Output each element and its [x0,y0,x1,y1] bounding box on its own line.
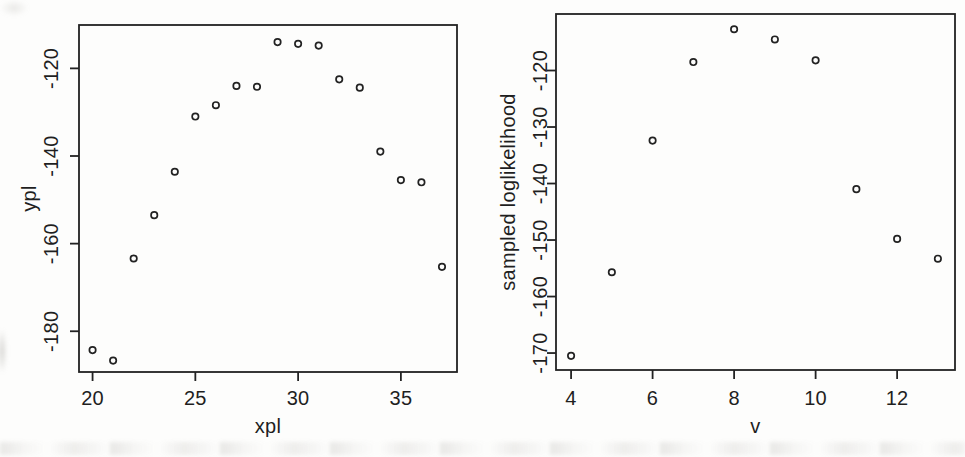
data-point [192,113,198,119]
data-point [151,212,157,218]
data-point [130,255,136,261]
data-point [377,148,383,154]
x-tick-label: 8 [728,387,739,409]
data-point [213,102,219,108]
x-tick-label: 30 [287,387,310,409]
data-point [812,57,818,63]
scanned-page: 20253035-180-160-140-120xplypl 4681012-1… [0,0,965,457]
data-point [274,39,280,45]
data-point [649,137,655,143]
data-point [110,357,116,363]
y-tick-label: -120 [40,48,62,89]
data-point [295,41,301,47]
data-point [254,84,260,90]
y-tick-label: -160 [40,223,62,264]
scan-artifact-blob [0,0,28,16]
y-tick-label: -170 [529,332,551,373]
data-point [398,177,404,183]
data-point [357,84,363,90]
chart-v-loglikelihood: 4681012-170-160-150-140-130-120vsampled … [497,14,955,437]
x-axis-title: v [750,415,760,437]
scan-artifact-blob [0,328,7,374]
data-point [439,264,445,270]
data-point [935,255,941,261]
plots-figure: 20253035-180-160-140-120xplypl 4681012-1… [0,0,965,457]
data-point [853,186,859,192]
x-tick-label: 6 [647,387,658,409]
x-tick-label: 20 [81,387,104,409]
data-point [172,169,178,175]
data-point [568,353,574,359]
x-tick-label: 4 [565,387,576,409]
x-tick-label: 12 [886,387,909,409]
y-axis-title: ypl [18,185,40,211]
data-point [731,26,737,32]
y-tick-label: -150 [529,219,551,260]
data-point [772,36,778,42]
chart-xpl-ypl: 20253035-180-160-140-120xplypl [18,25,457,437]
data-point [336,76,342,82]
x-tick-label: 35 [389,387,412,409]
y-tick-label: -130 [529,106,551,147]
x-axis-title: xpl [255,415,281,437]
data-point [89,347,95,353]
plot-box [556,14,955,370]
data-point [418,179,424,185]
y-tick-label: -120 [529,50,551,91]
data-point [609,269,615,275]
plot-box [79,25,457,372]
y-tick-label: -140 [529,163,551,204]
y-axis-title: sampled loglikelihood [497,93,519,291]
x-tick-label: 25 [184,387,207,409]
x-tick-label: 10 [804,387,827,409]
data-point [315,42,321,48]
scan-artifact-band [0,442,965,455]
data-point [690,59,696,65]
y-tick-label: -140 [40,135,62,176]
data-point [233,83,239,89]
y-tick-label: -180 [40,311,62,352]
data-point [894,236,900,242]
y-tick-label: -160 [529,276,551,317]
